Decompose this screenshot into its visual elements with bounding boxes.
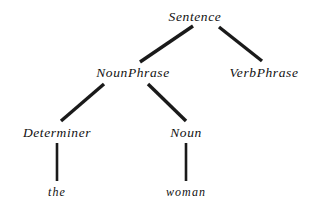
tree-node-woman: woman bbox=[166, 186, 206, 198]
parse-tree-diagram: SentenceNounPhraseVerbPhraseDeterminerNo… bbox=[0, 0, 314, 210]
tree-node-nounphrase: NounPhrase bbox=[96, 66, 170, 80]
tree-node-verbphrase: VerbPhrase bbox=[230, 66, 299, 80]
edge-sentence-nounphrase bbox=[140, 26, 193, 62]
edge-nounphrase-determiner bbox=[61, 84, 104, 121]
tree-edges-layer bbox=[0, 0, 314, 210]
tree-node-sentence: Sentence bbox=[169, 10, 222, 24]
edge-nounphrase-noun bbox=[148, 84, 186, 121]
tree-node-noun: Noun bbox=[170, 126, 202, 140]
edges-group bbox=[57, 26, 262, 181]
tree-node-the: the bbox=[48, 186, 66, 198]
edge-sentence-verbphrase bbox=[219, 27, 262, 61]
tree-node-determiner: Determiner bbox=[23, 126, 91, 140]
